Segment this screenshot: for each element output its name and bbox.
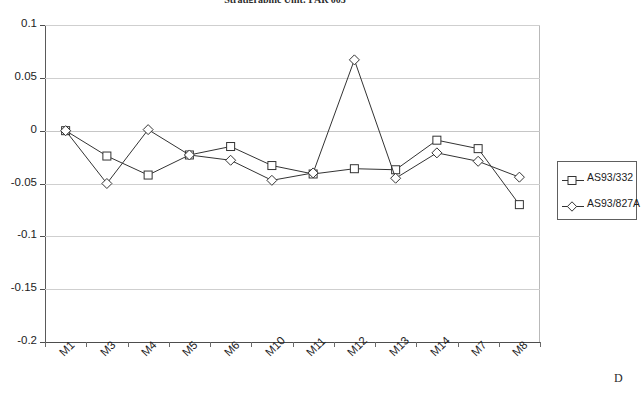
x-axis-tick xyxy=(458,342,459,347)
x-axis-tick xyxy=(416,342,417,347)
legend-item-as93-332[interactable]: AS93/332 xyxy=(562,170,633,184)
diamond-marker-icon xyxy=(562,198,584,209)
x-axis-tick xyxy=(334,342,335,347)
x-axis-tick xyxy=(375,342,376,347)
x-axis-tick xyxy=(210,342,211,347)
chart-title: Stratigraphic Unit: PAR 005 xyxy=(0,0,570,3)
y-axis-tick-label: -0.15 xyxy=(0,281,37,293)
x-axis-tick xyxy=(293,342,294,347)
gridline xyxy=(45,289,540,290)
corner-mark: D xyxy=(614,371,623,386)
y-axis-tick-label: -0.2 xyxy=(0,334,37,346)
y-axis-tick-label: -0.1 xyxy=(0,228,37,240)
chart-container: Stratigraphic Unit: PAR 005 0.10.050-0.0… xyxy=(0,0,642,401)
x-axis-tick xyxy=(128,342,129,347)
gridline xyxy=(45,25,540,26)
gridline xyxy=(45,184,540,185)
square-marker-icon xyxy=(562,172,584,183)
y-axis-tick xyxy=(40,78,45,79)
gridline xyxy=(45,236,540,237)
y-axis-tick-label: -0.05 xyxy=(0,176,37,188)
y-axis-tick xyxy=(40,289,45,290)
x-axis-tick xyxy=(499,342,500,347)
legend-label: AS93/827A xyxy=(587,197,640,209)
gridline xyxy=(45,78,540,79)
y-axis-tick-label: 0 xyxy=(0,123,37,135)
legend-item-as93-827a[interactable]: AS93/827A xyxy=(562,196,640,210)
gridline xyxy=(45,131,540,132)
y-axis-tick-label: 0.05 xyxy=(0,70,37,82)
y-axis-tick-label: 0.1 xyxy=(0,17,37,29)
legend-label: AS93/332 xyxy=(587,171,633,183)
x-axis-tick xyxy=(45,342,46,347)
x-axis-tick xyxy=(540,342,541,347)
y-axis-tick xyxy=(40,131,45,132)
y-axis-tick xyxy=(40,184,45,185)
y-axis-tick xyxy=(40,25,45,26)
y-axis-tick xyxy=(40,236,45,237)
x-axis-tick xyxy=(169,342,170,347)
legend: AS93/332 AS93/827A xyxy=(557,161,637,220)
x-axis-tick xyxy=(86,342,87,347)
x-axis-tick xyxy=(251,342,252,347)
